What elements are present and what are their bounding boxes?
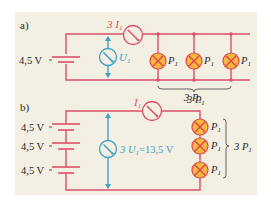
lamp-label-a-2: P1 bbox=[203, 55, 214, 68]
circuit-a: a) 4,5 V 3 I1 U1 P1 P1 P1 3 P1 bbox=[19, 18, 251, 105]
lamp-b-3 bbox=[192, 162, 208, 178]
circuit-diagram: a) 4,5 V 3 I1 U1 P1 P1 P1 3 P1 bbox=[0, 0, 271, 203]
battery-voltage-a: 4,5 V bbox=[19, 55, 43, 66]
lamp-b-1 bbox=[192, 119, 208, 135]
label-b: b) bbox=[20, 101, 30, 114]
battery-icon bbox=[52, 57, 80, 62]
battery-voltage-b-1: 4,5 V bbox=[21, 122, 45, 133]
lamp-label-a-1: P1 bbox=[167, 55, 178, 68]
voltmeter-label-a: U1 bbox=[119, 51, 130, 65]
brace-b bbox=[223, 119, 229, 178]
battery-voltage-b-3: 4,5 V bbox=[21, 165, 45, 176]
ammeter-b bbox=[143, 102, 162, 121]
voltmeter-a bbox=[100, 36, 117, 78]
battery-icon-b-3 bbox=[52, 167, 80, 173]
lamp-label-b-1: P1 bbox=[210, 121, 221, 134]
lamp-label-b-3: P1 bbox=[210, 164, 221, 177]
battery-voltage-b-2: 4,5 V bbox=[21, 141, 45, 152]
lamp-label-a-3: P1 bbox=[240, 55, 251, 68]
voltmeter-b bbox=[100, 113, 117, 189]
battery-icon-b-2 bbox=[52, 143, 80, 149]
ammeter-label-b: I1 bbox=[133, 96, 141, 110]
label-a: a) bbox=[20, 19, 29, 32]
battery-icon-b-1 bbox=[52, 124, 80, 130]
ammeter-a bbox=[124, 26, 143, 45]
voltmeter-label-b: 3 U1=13,5 V bbox=[119, 144, 174, 157]
lamp-a-1 bbox=[150, 53, 166, 69]
lamp-a-3 bbox=[223, 53, 239, 69]
circuit-b: b) 4,5 V 4,5 V 4,5 V I1 3 P1 3 U1=13,5 V… bbox=[20, 94, 252, 190]
lamp-b-2 bbox=[192, 138, 208, 154]
top-label-b: 3 P1 bbox=[186, 94, 205, 107]
lamp-label-b-2: P1 bbox=[210, 140, 221, 153]
ammeter-label-a: 3 I1 bbox=[106, 18, 122, 32]
lamp-a-2 bbox=[186, 53, 202, 69]
brace-label-b: 3 P1 bbox=[233, 141, 252, 154]
